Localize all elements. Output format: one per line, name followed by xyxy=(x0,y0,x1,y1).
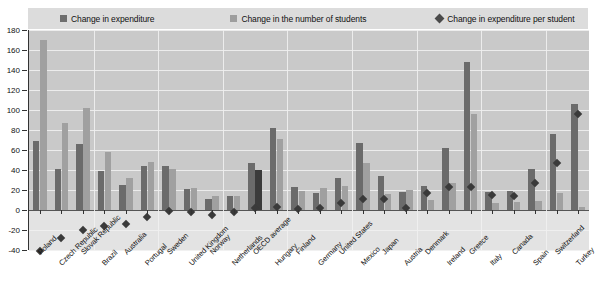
x-axis-label-spain: Spain xyxy=(531,248,551,268)
y-axis-tick-label: 40 xyxy=(11,166,20,175)
bar-change-in-expenditure xyxy=(55,169,61,210)
bar-change-in-students xyxy=(191,188,197,210)
x-axis-tick-mark xyxy=(61,210,62,214)
y-axis-tick-mark xyxy=(22,170,27,171)
gridline-horizontal xyxy=(29,110,589,111)
x-axis-tick-mark xyxy=(341,210,342,214)
bar-change-in-students xyxy=(557,193,563,210)
bar-change-in-students xyxy=(105,152,111,210)
x-axis-tick-mark xyxy=(363,210,364,214)
bar-change-in-expenditure xyxy=(141,166,147,210)
bar-change-in-students xyxy=(277,139,283,210)
gridline-vertical xyxy=(352,30,353,250)
x-axis-label-brazil: Brazil xyxy=(100,248,119,267)
y-axis-tick-mark xyxy=(22,110,27,111)
bar-change-in-expenditure xyxy=(205,199,211,210)
gridline-vertical xyxy=(158,30,159,250)
x-axis-tick-mark xyxy=(320,210,321,214)
y-axis-tick-label: 60 xyxy=(11,146,20,155)
legend-label-per-student: Change in expenditure per student xyxy=(447,14,574,24)
y-axis-tick-label: 20 xyxy=(11,186,20,195)
legend-item-students: Change in the number of students xyxy=(230,14,366,24)
x-axis-tick-mark xyxy=(169,210,170,214)
gridline-vertical xyxy=(481,30,482,250)
bar-change-in-expenditure xyxy=(162,166,168,210)
bar-change-in-students xyxy=(579,207,585,210)
x-axis-tick-mark xyxy=(104,210,105,214)
y-axis-tick-mark xyxy=(22,230,27,231)
bar-change-in-students xyxy=(212,196,218,210)
bar-change-in-students xyxy=(363,163,369,210)
x-axis-tick-mark xyxy=(277,210,278,214)
y-axis-tick-label: -40 xyxy=(8,246,20,255)
gridline-horizontal xyxy=(29,190,589,191)
x-axis-tick-mark xyxy=(191,210,192,214)
bar-change-in-students xyxy=(83,108,89,210)
gridline-horizontal xyxy=(29,130,589,131)
bar-change-in-expenditure xyxy=(571,104,577,210)
gridline-horizontal xyxy=(29,230,589,231)
x-axis-tick-mark xyxy=(535,210,536,214)
bar-change-in-students xyxy=(169,169,175,210)
x-axis-tick-mark xyxy=(492,210,493,214)
bar-change-in-students xyxy=(342,186,348,210)
x-axis-tick-mark xyxy=(578,210,579,214)
x-axis-tick-mark xyxy=(298,210,299,214)
bar-change-in-expenditure xyxy=(270,128,276,210)
x-axis-tick-mark xyxy=(406,210,407,214)
legend-square-dark-icon xyxy=(60,15,67,22)
gridline-vertical xyxy=(417,30,418,250)
x-axis-tick-mark xyxy=(234,210,235,214)
bar-change-in-expenditure xyxy=(550,134,556,210)
gridline-horizontal xyxy=(29,90,589,91)
legend-label-expenditure: Change in expenditure xyxy=(71,14,154,24)
bar-change-in-expenditure xyxy=(98,171,104,210)
bar-change-in-students xyxy=(471,114,477,210)
bar-change-in-expenditure xyxy=(442,148,448,210)
plot-wrapper: -40-20020406080100120140160180 xyxy=(0,30,598,255)
bar-change-in-expenditure xyxy=(76,144,82,210)
bar-change-in-expenditure xyxy=(378,176,384,210)
y-axis-tick-label: -20 xyxy=(8,226,20,235)
bar-change-in-expenditure xyxy=(33,141,39,210)
bar-change-in-students xyxy=(428,200,434,210)
x-axis-labels: PolandCzech RepublicSlovak RepublicBrazi… xyxy=(28,250,588,297)
legend-square-light-icon xyxy=(230,15,237,22)
gridline-horizontal xyxy=(29,70,589,71)
x-axis-label-italy: Italy xyxy=(488,252,504,268)
x-axis-tick-mark xyxy=(40,210,41,214)
y-axis-tick-label: 120 xyxy=(7,86,20,95)
bar-change-in-students xyxy=(514,202,520,210)
y-axis-tick-mark xyxy=(22,90,27,91)
bar-change-in-students xyxy=(62,123,68,210)
x-axis-tick-mark xyxy=(212,210,213,214)
y-axis-tick-label: 100 xyxy=(7,106,20,115)
bar-change-in-expenditure xyxy=(528,169,534,210)
y-axis-tick-mark xyxy=(22,210,27,211)
y-axis-tick-mark xyxy=(22,250,27,251)
x-axis-tick-mark xyxy=(471,210,472,214)
y-axis-tick-mark xyxy=(22,30,27,31)
bar-change-in-students xyxy=(40,40,46,210)
y-axis-tick-label: 0 xyxy=(16,206,20,215)
x-axis-tick-mark xyxy=(126,210,127,214)
bar-change-in-expenditure xyxy=(184,189,190,210)
x-axis-tick-mark xyxy=(147,210,148,214)
bar-change-in-expenditure xyxy=(119,185,125,210)
legend-label-students: Change in the number of students xyxy=(241,14,366,24)
y-axis-tick-label: 180 xyxy=(7,26,20,35)
gridline-horizontal xyxy=(29,150,589,151)
y-axis-tick-mark xyxy=(22,130,27,131)
bar-change-in-students xyxy=(126,178,132,210)
y-axis-tick-mark xyxy=(22,70,27,71)
gridline-horizontal xyxy=(29,30,589,31)
y-axis-tick-label: 160 xyxy=(7,46,20,55)
bar-change-in-students xyxy=(535,201,541,210)
gridline-vertical xyxy=(546,30,547,250)
chart-legend: Change in expenditure Change in the numb… xyxy=(28,8,588,29)
gridline-horizontal xyxy=(29,50,589,51)
y-axis-tick-mark xyxy=(22,50,27,51)
x-axis-tick-mark xyxy=(427,210,428,214)
x-axis-tick-mark xyxy=(449,210,450,214)
legend-item-expenditure: Change in expenditure xyxy=(60,14,154,24)
